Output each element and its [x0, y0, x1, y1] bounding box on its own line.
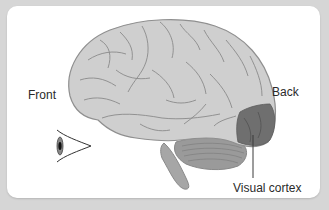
- back-label: Back: [272, 85, 299, 99]
- front-label: Front: [28, 88, 56, 102]
- brain-diagram: [0, 0, 329, 210]
- visual-cortex-region: [237, 104, 275, 146]
- eye-icon: [57, 130, 91, 162]
- visual-cortex-label: Visual cortex: [233, 181, 301, 195]
